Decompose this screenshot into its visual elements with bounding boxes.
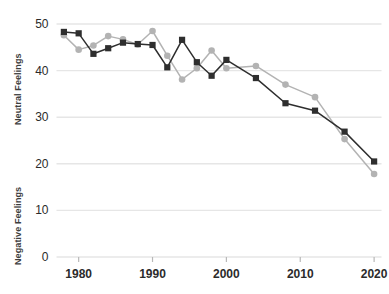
data-point-2000 bbox=[223, 57, 229, 63]
x-tick-label-2000: 2000 bbox=[202, 268, 250, 280]
data-point-1982 bbox=[90, 51, 96, 57]
x-axis-ticks-group bbox=[79, 257, 374, 262]
data-point-2000 bbox=[223, 65, 230, 72]
y-tick-label-50: 50 bbox=[21, 18, 49, 30]
data-point-1982 bbox=[90, 42, 97, 49]
data-point-2020 bbox=[371, 158, 377, 164]
x-tick-label-1980: 1980 bbox=[55, 268, 103, 280]
x-tick-label-1990: 1990 bbox=[129, 268, 177, 280]
data-point-2008 bbox=[282, 81, 289, 88]
data-point-1998 bbox=[209, 73, 215, 79]
data-point-2008 bbox=[282, 100, 288, 106]
x-tick-label-2020: 2020 bbox=[350, 268, 389, 280]
data-point-2016 bbox=[341, 129, 347, 135]
data-point-1984 bbox=[105, 45, 111, 51]
data-point-1998 bbox=[208, 47, 215, 54]
chart-container: Neutral Feelings Negative Feelings 01020… bbox=[0, 0, 389, 294]
data-point-1988 bbox=[135, 41, 141, 47]
data-point-1984 bbox=[105, 33, 112, 40]
data-point-1996 bbox=[194, 65, 201, 72]
y-tick-label-30: 30 bbox=[21, 111, 49, 123]
x-tick-label-2010: 2010 bbox=[276, 268, 324, 280]
series-polyline bbox=[64, 32, 374, 162]
y-tick-label-0: 0 bbox=[21, 251, 49, 263]
line-chart-plot bbox=[0, 0, 389, 294]
data-point-2012 bbox=[312, 108, 318, 114]
data-point-1994 bbox=[179, 37, 185, 43]
data-point-1992 bbox=[164, 64, 170, 70]
data-point-2020 bbox=[371, 171, 378, 178]
data-point-2004 bbox=[253, 75, 259, 81]
data-point-1980 bbox=[75, 46, 82, 53]
data-point-1980 bbox=[76, 30, 82, 36]
data-point-1986 bbox=[120, 40, 126, 46]
series-line-neutral-feelings bbox=[61, 29, 377, 165]
y-tick-label-10: 10 bbox=[21, 204, 49, 216]
data-point-2004 bbox=[253, 63, 260, 70]
y-tick-label-40: 40 bbox=[21, 65, 49, 77]
data-point-1990 bbox=[149, 42, 155, 48]
data-point-2016 bbox=[341, 136, 348, 143]
series-polyline bbox=[64, 31, 374, 174]
y-tick-label-20: 20 bbox=[21, 158, 49, 170]
data-point-1996 bbox=[194, 59, 200, 65]
data-point-1990 bbox=[149, 28, 156, 35]
data-point-2012 bbox=[312, 94, 319, 101]
data-point-1992 bbox=[164, 52, 171, 59]
data-point-1978 bbox=[61, 29, 67, 35]
data-point-1994 bbox=[179, 76, 186, 83]
